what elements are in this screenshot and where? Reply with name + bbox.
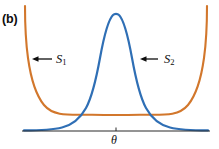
- curve-label-s2: S2: [164, 53, 175, 67]
- figure-panel-b: (b) θ S1 S2 θ: [0, 0, 219, 149]
- curve-s1: [25, 6, 207, 115]
- curve-s2: [24, 14, 208, 131]
- annotation-arrow-s1: [32, 56, 52, 61]
- annotation-arrow-s2: [140, 56, 158, 61]
- curve-label-s1-subscript: 1: [62, 57, 66, 67]
- plot-area: [0, 0, 219, 149]
- curve-label-s2-subscript: 2: [170, 57, 174, 67]
- curve-label-s1: S1: [56, 53, 67, 67]
- x-axis-label: θ: [111, 134, 117, 146]
